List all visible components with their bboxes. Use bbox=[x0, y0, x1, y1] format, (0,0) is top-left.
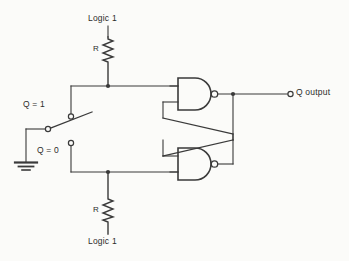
output-terminal-circle bbox=[288, 91, 293, 96]
nand-gate-top-body bbox=[178, 78, 211, 110]
switch-contact-high[interactable] bbox=[68, 114, 73, 119]
label-switch-position-high: Q = 1 bbox=[23, 99, 45, 109]
label-resistor-top: R bbox=[93, 44, 99, 53]
circuit-diagram: Logic 1 R Q = 1 Q = 0 R Logic 1 Q output bbox=[0, 0, 349, 261]
resistor-bottom bbox=[103, 172, 113, 234]
resistor-top bbox=[103, 37, 113, 86]
label-resistor-bottom: R bbox=[93, 205, 99, 214]
nand-gate-bottom-bubble bbox=[211, 161, 217, 167]
label-q-output: Q output bbox=[296, 87, 330, 97]
label-switch-position-low: Q = 0 bbox=[37, 145, 59, 155]
label-logic1-top: Logic 1 bbox=[88, 13, 117, 23]
switch-contact-low[interactable] bbox=[68, 140, 73, 145]
switch-pivot-contact[interactable] bbox=[45, 126, 50, 131]
junction-dot-top bbox=[106, 84, 110, 88]
label-logic1-bottom: Logic 1 bbox=[88, 236, 117, 246]
nand-gate-bottom-body bbox=[178, 148, 211, 180]
wire-feedback-bottom-cross bbox=[163, 118, 233, 134]
schematic-canvas bbox=[0, 0, 349, 261]
nand-gate-top-bubble bbox=[211, 91, 217, 97]
